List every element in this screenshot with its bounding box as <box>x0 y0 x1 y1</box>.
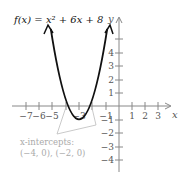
x-tick-label: −5 <box>45 111 59 121</box>
y-tick-label: −3 <box>101 142 115 152</box>
y-tick-label: −4 <box>101 155 115 165</box>
x-tick-label: 2 <box>142 111 148 121</box>
y-tick-label: 4 <box>108 48 114 58</box>
function-title: f(x) = x² + 6x + 8 <box>13 14 103 25</box>
x-tick-label: −7 <box>19 111 33 121</box>
y-tick-label: 1 <box>108 88 114 98</box>
x-tick-label: 1 <box>129 111 135 121</box>
y-tick-label: −2 <box>101 128 114 138</box>
annotation-line-1: x-intercepts: <box>20 137 74 147</box>
x-axis-label: x <box>172 109 178 120</box>
y-tick-label: −1 <box>101 115 114 125</box>
y-tick-label: 2 <box>108 75 114 85</box>
annotation-line-2: (−4, 0), (−2, 0) <box>20 148 85 158</box>
x-tick-labels: −7 −6 −5 −3 −1 1 2 3 <box>19 111 161 121</box>
x-tick-label: 3 <box>155 111 161 121</box>
x-tick-label: −6 <box>32 111 46 121</box>
y-axis-label: y <box>107 13 114 24</box>
parabola-chart: −7 −6 −5 −3 −1 1 2 3 4 3 2 1 −1 −2 −3 −4… <box>0 0 182 175</box>
y-tick-label: 3 <box>108 61 114 71</box>
